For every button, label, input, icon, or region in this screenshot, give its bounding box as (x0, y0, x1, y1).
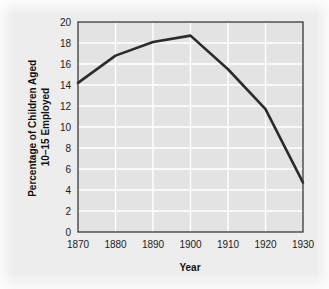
figure-panel: 02468101214161820 1870188018901900191019… (0, 0, 329, 289)
y-axis-tick-label: 12 (60, 101, 72, 112)
x-axis-title: Year (179, 262, 200, 273)
x-axis-tick-label: 1910 (217, 239, 240, 250)
y-axis-tick-label: 8 (65, 143, 71, 154)
x-axis-tick-label: 1920 (254, 239, 277, 250)
y-axis-tick-label: 6 (65, 164, 71, 175)
x-axis-tick-label: 1880 (104, 239, 127, 250)
x-axis-tick-label: 1890 (142, 239, 165, 250)
line-chart: 02468101214161820 1870188018901900191019… (0, 0, 329, 289)
x-axis-tick-label: 1870 (67, 239, 90, 250)
y-axis-tick-labels: 02468101214161820 (60, 17, 72, 238)
y-axis-tick-label: 18 (60, 38, 72, 49)
y-axis-tick-label: 0 (65, 227, 71, 238)
y-axis-tick-label: 4 (65, 185, 71, 196)
y-axis-tick-label: 14 (60, 80, 72, 91)
y-axis-title-line-2: 10–15 Employed (40, 88, 51, 166)
x-axis-tick-labels: 1870188018901900191019201930 (67, 239, 315, 250)
x-axis-tick-label: 1900 (179, 239, 202, 250)
y-axis-tick-label: 16 (60, 59, 72, 70)
y-axis-tick-label: 10 (60, 122, 72, 133)
y-axis-title: Percentage of Children Aged 10–15 Employ… (27, 57, 51, 197)
y-axis-tick-label: 2 (65, 206, 71, 217)
y-axis-tick-label: 20 (60, 17, 72, 28)
y-axis-title-line-1: Percentage of Children Aged (27, 60, 38, 197)
x-axis-tick-label: 1930 (292, 239, 315, 250)
